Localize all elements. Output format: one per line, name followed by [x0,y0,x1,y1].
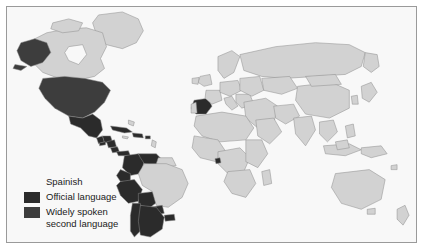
region-portugal [191,102,197,113]
region-el-salvador [100,142,106,146]
region-equatorial-guinea [215,158,221,164]
region-korea [351,95,358,104]
legend-swatch-second-language [24,207,40,218]
map-figure: Spainish Official language Widely spoken… [0,0,425,250]
region-philippines [345,124,355,138]
region-madagascar [262,170,272,186]
map-legend: Spainish Official language Widely spoken… [24,176,174,232]
region-mongolia [306,74,342,86]
region-antarctic-edge [7,239,416,242]
region-tasmania [367,208,375,214]
region-borneo [335,140,349,150]
legend-swatch-official [24,192,40,203]
legend-item-official: Official language [24,191,174,203]
region-puerto-rico [145,136,150,139]
region-pacific-islands [391,165,397,170]
legend-title: Spainish [46,176,174,188]
region-hispaniola [132,133,143,138]
legend-label-second-language: Widely spoken second language [46,206,118,229]
legend-item-second-language: Widely spoken second language [24,206,174,229]
legend-label-official: Official language [46,191,117,203]
region-ireland [192,77,199,84]
